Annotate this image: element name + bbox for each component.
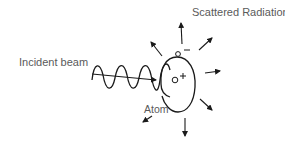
atom-label: Atom [144,104,169,115]
incident-beam-arrow [92,74,156,80]
scatter-arrow-lower-right [200,99,212,110]
nucleus-plus-sign [180,73,186,79]
scatter-arrow-upper-right [199,38,212,50]
nucleus-icon [172,77,178,83]
electron-icon [176,52,181,57]
x-ray-scattering-diagram: Scattered Radiation Incident beam Atom [0,0,285,148]
scattered-radiation-label: Scattered Radiation [192,7,285,18]
scatter-arrow-upper-left [151,42,162,56]
diagram-canvas [0,0,285,148]
incident-beam-label: Incident beam [19,57,88,68]
scatter-arrow-right [205,71,220,73]
scatter-arrow-lower-left [143,116,152,122]
scatter-arrow-up [181,23,182,44]
